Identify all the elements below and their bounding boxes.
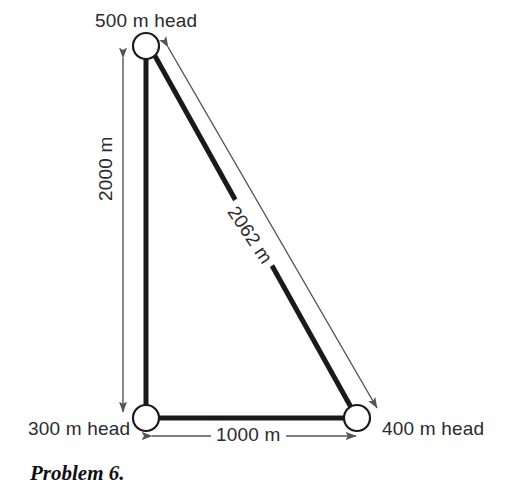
figure-caption: Problem 6. bbox=[30, 461, 125, 486]
node-bottom-left-300 bbox=[133, 405, 159, 431]
node-label-top: 500 m head bbox=[95, 10, 197, 32]
node-label-bottom-left: 300 m head bbox=[28, 418, 130, 440]
node-label-bottom-right: 400 m head bbox=[382, 418, 484, 440]
node-top-500 bbox=[133, 33, 159, 59]
node-bottom-right-400 bbox=[344, 405, 370, 431]
dimension-line-diagonal bbox=[168, 47, 377, 408]
dimension-label-horizontal: 1000 m bbox=[211, 424, 286, 446]
dimension-label-vertical: 2000 m bbox=[95, 131, 117, 206]
